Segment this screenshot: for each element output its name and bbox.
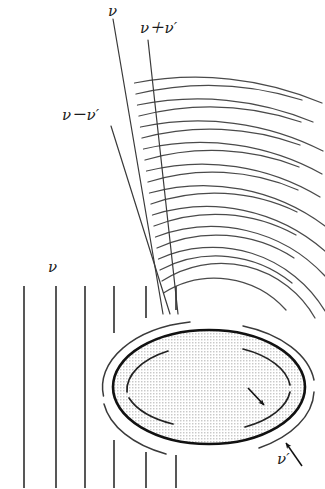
label-radial-nu-minus-nu-prime: ν－ν′ xyxy=(62,103,99,124)
circular-wavefront-arcs xyxy=(135,77,325,318)
radial-line-nu-minus-nu-prime xyxy=(111,126,170,314)
circular-wavefront-arc xyxy=(154,214,296,235)
circular-wavefront-arc xyxy=(142,129,300,145)
circular-wavefront-arc xyxy=(157,235,294,258)
circular-wavefront-arc xyxy=(164,278,287,310)
label-rotation-nu-prime: ν′ xyxy=(277,450,290,468)
circular-wavefront-arc xyxy=(162,263,315,318)
label-radial-nu: ν xyxy=(108,2,117,20)
rotating-ellipse-body xyxy=(113,330,305,444)
label-radial-nu-plus-nu-prime: ν＋ν′ xyxy=(140,16,177,37)
figure-canvas xyxy=(0,0,325,489)
circular-wavefront-arc xyxy=(150,186,325,226)
circular-wavefront-arc xyxy=(141,121,324,151)
wave-interference-figure: ν ν＋ν′ ν－ν′ ν ν′ xyxy=(0,0,325,489)
circular-wavefront-arc xyxy=(135,77,323,103)
label-plane-wave-nu: ν xyxy=(48,258,57,276)
radial-line-nu-plus-nu-prime xyxy=(148,40,178,314)
circular-wavefront-arc xyxy=(148,172,298,190)
circular-wavefront-arc xyxy=(144,142,323,174)
circular-wavefront-arc xyxy=(159,247,325,311)
circular-wavefront-arc xyxy=(147,164,321,197)
